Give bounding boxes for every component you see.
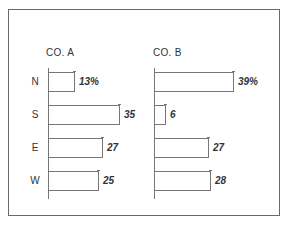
bar-end-tick bbox=[164, 104, 167, 105]
value-label-co-a-s: 35 bbox=[124, 109, 135, 120]
bar-end-tick bbox=[207, 137, 210, 138]
bar-co-a-w bbox=[48, 171, 99, 191]
panel-title-co-a: CO. A bbox=[46, 47, 74, 58]
category-label-w: W bbox=[28, 175, 42, 186]
bar-end-tick bbox=[209, 170, 212, 171]
panel-title-co-b: CO. B bbox=[153, 47, 182, 58]
bar-co-b-w bbox=[154, 171, 211, 191]
bar-co-a-s bbox=[48, 105, 120, 125]
value-label-co-a-e: 27 bbox=[107, 142, 118, 153]
category-label-e: E bbox=[28, 142, 42, 153]
value-label-co-a-w: 25 bbox=[103, 175, 114, 186]
bar-end-tick bbox=[97, 170, 100, 171]
value-label-co-b-n: 39% bbox=[238, 76, 258, 87]
value-label-co-a-n: 13% bbox=[79, 76, 99, 87]
bar-co-b-s bbox=[154, 105, 166, 125]
bar-end-tick bbox=[73, 71, 76, 72]
category-label-n: N bbox=[28, 76, 42, 87]
bar-co-a-e bbox=[48, 138, 103, 158]
category-label-s: S bbox=[28, 109, 42, 120]
bar-end-tick bbox=[232, 71, 235, 72]
bar-co-a-n bbox=[48, 72, 75, 92]
bar-end-tick bbox=[101, 137, 104, 138]
value-label-co-b-w: 28 bbox=[215, 175, 226, 186]
bar-co-b-e bbox=[154, 138, 209, 158]
bar-end-tick bbox=[118, 104, 121, 105]
value-label-co-b-e: 27 bbox=[213, 142, 224, 153]
bar-co-b-n bbox=[154, 72, 234, 92]
value-label-co-b-s: 6 bbox=[170, 109, 176, 120]
